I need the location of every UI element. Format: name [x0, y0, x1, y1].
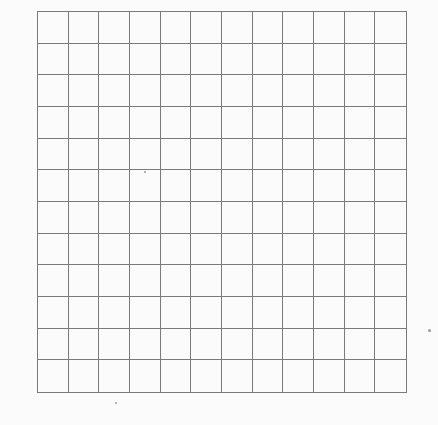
grid-cell	[161, 12, 192, 44]
grid-cell	[99, 107, 130, 139]
grid-cell	[253, 234, 284, 266]
grid-cell	[345, 202, 376, 234]
grid-cell	[161, 75, 192, 107]
grid-cell	[69, 329, 100, 361]
grid-cell	[283, 139, 314, 171]
grid-cell	[345, 329, 376, 361]
grid-cell	[375, 139, 406, 171]
grid-cell	[314, 202, 345, 234]
grid-cell	[314, 329, 345, 361]
grid-cell	[161, 202, 192, 234]
grid-cell	[222, 297, 253, 329]
grid-cell	[345, 139, 376, 171]
grid-cell	[283, 360, 314, 392]
graph-paper-canvas	[0, 0, 438, 425]
grid-cell	[99, 360, 130, 392]
grid-cell	[375, 75, 406, 107]
grid-cell	[161, 139, 192, 171]
grid-cell	[191, 12, 222, 44]
grid-cell	[99, 202, 130, 234]
grid-cell	[38, 75, 69, 107]
grid-cell	[191, 265, 222, 297]
grid-cell	[345, 265, 376, 297]
grid-cell	[69, 265, 100, 297]
grid-cell	[161, 170, 192, 202]
grid-cell	[130, 202, 161, 234]
grid-cell	[283, 170, 314, 202]
paper-speck	[428, 329, 431, 332]
grid-cell	[99, 139, 130, 171]
grid-cell	[283, 12, 314, 44]
grid-cell	[222, 265, 253, 297]
grid-cell	[69, 75, 100, 107]
grid-cell	[69, 107, 100, 139]
grid-cell	[99, 234, 130, 266]
grid-cell	[253, 329, 284, 361]
grid-cell	[69, 234, 100, 266]
grid-cell	[161, 44, 192, 76]
grid-cell	[375, 234, 406, 266]
grid-cell	[222, 44, 253, 76]
grid-cell	[38, 170, 69, 202]
square-grid	[37, 11, 407, 393]
grid-cell	[222, 12, 253, 44]
grid-cell	[222, 360, 253, 392]
grid-cell	[283, 265, 314, 297]
grid-cell	[314, 139, 345, 171]
grid-cell	[222, 329, 253, 361]
grid-cell	[345, 170, 376, 202]
grid-cell	[191, 170, 222, 202]
grid-cell	[38, 329, 69, 361]
grid-cell	[130, 139, 161, 171]
grid-cell	[314, 265, 345, 297]
grid-cell	[38, 107, 69, 139]
grid-cell	[253, 12, 284, 44]
grid-cell	[345, 12, 376, 44]
grid-cell	[283, 202, 314, 234]
grid-cell	[191, 360, 222, 392]
grid-cell	[99, 44, 130, 76]
grid-cell	[99, 297, 130, 329]
grid-cell	[191, 107, 222, 139]
grid-cell	[38, 12, 69, 44]
grid-cell	[38, 297, 69, 329]
grid-cell	[375, 265, 406, 297]
grid-cell	[191, 234, 222, 266]
grid-cell	[222, 139, 253, 171]
grid-cell	[314, 170, 345, 202]
grid-cell	[283, 75, 314, 107]
grid-cell	[191, 297, 222, 329]
grid-cell	[191, 44, 222, 76]
grid-cell	[69, 170, 100, 202]
grid-cell	[130, 170, 161, 202]
grid-cell	[130, 44, 161, 76]
grid-cell	[130, 265, 161, 297]
grid-cell	[161, 329, 192, 361]
grid-cell	[253, 75, 284, 107]
paper-speck	[115, 402, 117, 404]
grid-cell	[345, 234, 376, 266]
grid-cell	[130, 360, 161, 392]
grid-cell	[283, 44, 314, 76]
grid-cell	[375, 329, 406, 361]
grid-cell	[314, 107, 345, 139]
grid-cell	[222, 107, 253, 139]
grid-cell	[69, 202, 100, 234]
grid-cell	[69, 360, 100, 392]
grid-cell	[253, 202, 284, 234]
grid-cell	[314, 360, 345, 392]
grid-cell	[130, 329, 161, 361]
grid-cell	[222, 234, 253, 266]
grid-cell	[222, 170, 253, 202]
grid-cell	[69, 44, 100, 76]
grid-cell	[253, 265, 284, 297]
grid-cell	[38, 44, 69, 76]
grid-cell	[38, 202, 69, 234]
grid-cell	[253, 44, 284, 76]
grid-cell	[283, 107, 314, 139]
paper-speck	[144, 171, 146, 173]
grid-cell	[161, 107, 192, 139]
grid-cell	[314, 12, 345, 44]
grid-cell	[69, 139, 100, 171]
grid-cell	[99, 12, 130, 44]
